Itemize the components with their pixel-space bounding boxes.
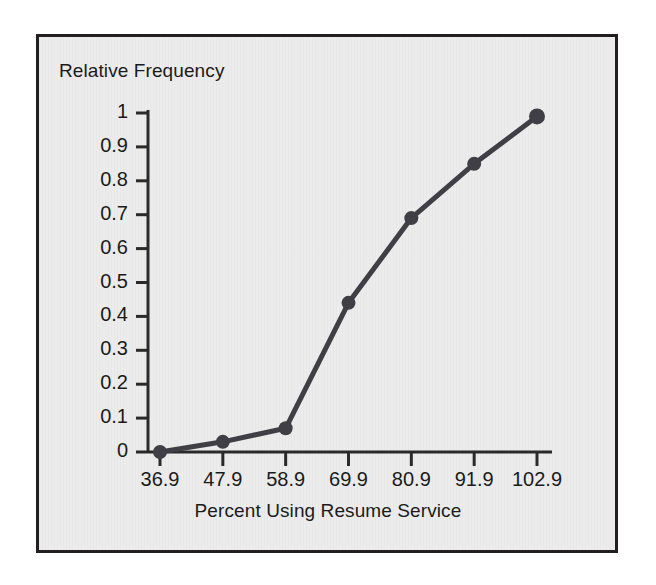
x-axis-tick-label: 102.9 xyxy=(497,468,577,491)
y-axis-tick-label: 0.2 xyxy=(68,371,128,394)
y-axis-tick-label: 0.9 xyxy=(68,134,128,157)
axes xyxy=(136,110,552,466)
y-axis-tick-label: 0.4 xyxy=(68,303,128,326)
y-axis-ticks xyxy=(136,113,148,452)
data-series-group xyxy=(153,108,545,459)
data-point-marker xyxy=(216,435,230,449)
data-point-marker xyxy=(467,157,481,171)
y-axis-tick-label: 0.7 xyxy=(68,202,128,225)
line-chart xyxy=(0,0,656,585)
data-point-marker xyxy=(404,211,418,225)
y-axis-title: Relative Frequency xyxy=(59,60,225,82)
data-point-marker xyxy=(342,296,356,310)
y-axis-tick-label: 0.5 xyxy=(68,270,128,293)
data-point-marker xyxy=(279,421,293,435)
data-point-marker xyxy=(529,108,545,124)
data-point-marker xyxy=(153,445,167,459)
x-axis-title: Percent Using Resume Service xyxy=(0,500,656,522)
y-axis-tick-label: 0.3 xyxy=(68,337,128,360)
y-axis-tick-label: 0.1 xyxy=(68,405,128,428)
y-axis-tick-label: 0.8 xyxy=(68,168,128,191)
y-axis-tick-label: 0 xyxy=(68,439,128,462)
y-axis-tick-label: 0.6 xyxy=(68,236,128,259)
x-axis-ticks xyxy=(160,452,537,466)
series-markers xyxy=(153,108,545,459)
figure-container: Relative Frequency Percent Using Resume … xyxy=(0,0,656,585)
y-axis-tick-label: 1 xyxy=(68,100,128,123)
